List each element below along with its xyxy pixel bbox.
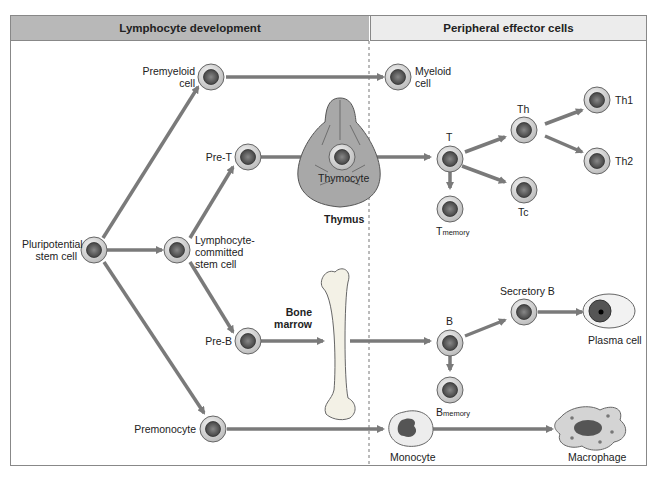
cell-th: [511, 117, 537, 143]
cell-secretory-b: [511, 299, 537, 325]
cell-monocyte: [389, 411, 433, 447]
cell-macrophage: [555, 407, 626, 450]
cell-thymocyte: [329, 144, 355, 170]
label-myeloid: Myeloidcell: [415, 65, 451, 89]
label-bone-marrow: Bonemarrow: [272, 306, 312, 330]
label-b-memory: Bmemory: [436, 406, 470, 420]
cell-lymphocyte-committed: [164, 237, 190, 263]
label-pluripotential: Pluripotentialstem cell: [22, 238, 77, 262]
cell-pre-b: [235, 328, 261, 354]
label-monocyte: Monocyte: [390, 451, 436, 463]
label-t: T: [446, 131, 452, 143]
cell-pre-t: [235, 144, 261, 170]
cell-myeloid: [385, 64, 411, 90]
label-secretory-b: Secretory B: [500, 285, 555, 297]
bone-marrow-organ: [321, 269, 355, 420]
cell-b-memory: [437, 377, 463, 403]
label-lymphocyte-committed: Lymphocyte-committedstem cell: [195, 234, 255, 270]
cell-plasma: [583, 294, 635, 328]
label-pre-t: Pre-T: [205, 151, 232, 163]
cell-th2: [584, 148, 610, 174]
label-plasma-cell: Plasma cell: [588, 334, 642, 346]
label-macrophage: Macrophage: [568, 451, 626, 463]
label-thymocyte: Thymocyte: [318, 172, 369, 184]
label-pre-b: Pre-B: [198, 335, 232, 347]
label-tc: Tc: [518, 206, 529, 218]
cell-t: [437, 146, 463, 172]
label-premyeloid: Premyeloidcell: [140, 65, 195, 89]
label-premonocyte: Premonocyte: [130, 423, 196, 435]
cell-t-memory: [437, 196, 463, 222]
cell-premyeloid: [198, 64, 224, 90]
cell-th1: [584, 87, 610, 113]
diagram-graphics: [0, 0, 656, 477]
cell-b: [437, 330, 463, 356]
label-thymus: Thymus: [324, 213, 364, 225]
label-th2: Th2: [615, 155, 633, 167]
label-th: Th: [517, 103, 529, 115]
cell-pluripotential: [81, 237, 107, 263]
cell-premonocyte: [200, 416, 226, 442]
label-b: B: [446, 315, 453, 327]
cell-tc: [511, 177, 537, 203]
label-t-memory: Tmemory: [436, 225, 470, 239]
label-th1: Th1: [615, 94, 633, 106]
